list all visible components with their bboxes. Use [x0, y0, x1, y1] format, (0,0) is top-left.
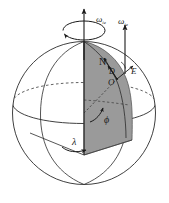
north-label: N: [99, 56, 106, 67]
omega-spin-label: ωie: [96, 14, 107, 25]
omega-spin-subscript: ie: [102, 20, 106, 25]
earth-navigation-frame-figure: ωie ωie N D O E ϕ λ: [0, 0, 169, 203]
latitude-label: ϕ: [104, 114, 109, 125]
down-label: D: [108, 67, 115, 76]
longitude-label: λ: [71, 136, 77, 147]
diagram-canvas: ωie ωie N D O E ϕ λ: [0, 0, 169, 203]
omega-local-label: ωie: [118, 16, 129, 27]
omega-local-subscript: ie: [124, 22, 128, 27]
origin-label: O: [108, 77, 115, 87]
east-label: E: [130, 66, 137, 76]
